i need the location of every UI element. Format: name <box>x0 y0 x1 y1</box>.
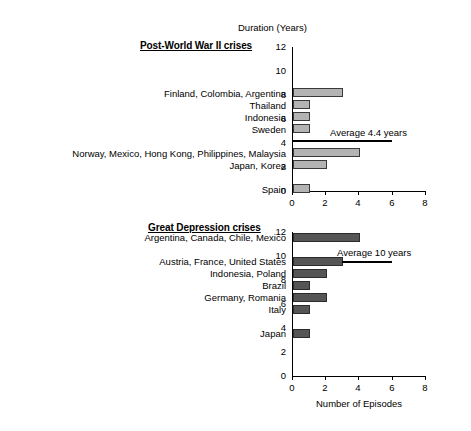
bar-greatdepression-4 <box>293 293 327 302</box>
plot-area-postwwii: 12 10 8 6 4 2 0 0 2 4 6 8 Average 4.4 ye… <box>292 47 425 191</box>
y-ticklabel-greatdepression-10: 10 <box>264 250 286 261</box>
y-ticklabel-postwwii-4: 4 <box>264 137 286 148</box>
y-ticklabel-greatdepression-2: 2 <box>264 346 286 357</box>
category-label-greatdepression-0: Argentina, Canada, Chile, Mexico <box>36 232 286 243</box>
average-label-postwwii: Average 4.4 years <box>330 127 407 138</box>
bar-postwwii-0 <box>293 88 343 97</box>
y-ticklabel-greatdepression-8: 8 <box>264 274 286 285</box>
x-ticklabel-greatdepression-2: 2 <box>315 382 335 393</box>
category-label-postwwii-2: Indonesia <box>46 112 286 123</box>
panel-title-postwwii: Post-World War II crises <box>140 40 252 51</box>
x-tick-greatdepression-8 <box>425 376 426 380</box>
x-ticklabel-postwwii-0: 0 <box>282 197 302 208</box>
x-axis-line-greatdepression <box>292 376 426 377</box>
bar-greatdepression-1 <box>293 257 343 266</box>
x-axis-title: Number of Episodes <box>316 398 402 409</box>
average-label-greatdepression: Average 10 years <box>337 247 411 258</box>
x-tick-postwwii-8 <box>425 191 426 195</box>
average-line-postwwii <box>292 140 392 142</box>
x-ticklabel-postwwii-8: 8 <box>415 197 435 208</box>
y-ticklabel-postwwii-2: 2 <box>264 161 286 172</box>
x-ticklabel-greatdepression-6: 6 <box>382 382 402 393</box>
bar-greatdepression-0 <box>293 233 360 242</box>
category-label-greatdepression-3: Brazil <box>36 280 286 291</box>
figure-root: Duration (Years) Post-World War II crise… <box>0 0 471 431</box>
bar-greatdepression-3 <box>293 281 310 290</box>
x-tick-greatdepression-2 <box>325 376 326 380</box>
category-label-postwwii-1: Thailand <box>46 100 286 111</box>
bar-greatdepression-5 <box>293 305 310 314</box>
x-ticklabel-postwwii-6: 6 <box>382 197 402 208</box>
y-ticklabel-greatdepression-6: 6 <box>264 298 286 309</box>
bar-postwwii-3 <box>293 124 310 133</box>
x-ticklabel-greatdepression-0: 0 <box>282 382 302 393</box>
y-ticklabel-postwwii-10: 10 <box>264 65 286 76</box>
bar-postwwii-6 <box>293 184 310 193</box>
x-ticklabel-postwwii-4: 4 <box>348 197 368 208</box>
x-tick-greatdepression-0 <box>292 376 293 380</box>
plot-area-greatdepression: 12 10 8 6 4 2 0 0 2 4 6 8 Average 10 yea… <box>292 232 425 376</box>
category-label-postwwii-4: Norway, Mexico, Hong Kong, Philippines, … <box>16 148 286 159</box>
y-ticklabel-greatdepression-12: 12 <box>264 226 286 237</box>
y-ticklabel-greatdepression-0: 0 <box>264 370 286 381</box>
bar-postwwii-4 <box>293 148 360 157</box>
category-label-greatdepression-6: Japan <box>36 328 286 339</box>
y-axis-title: Duration (Years) <box>238 22 307 33</box>
category-label-postwwii-0: Finland, Colombia, Argentina <box>46 88 286 99</box>
y-ticklabel-postwwii-12: 12 <box>264 41 286 52</box>
x-tick-postwwii-4 <box>358 191 359 195</box>
category-label-postwwii-5: Japan, Korea <box>46 160 286 171</box>
y-ticklabel-greatdepression-4: 4 <box>264 322 286 333</box>
bar-greatdepression-2 <box>293 269 327 278</box>
x-tick-greatdepression-6 <box>392 376 393 380</box>
bar-greatdepression-6 <box>293 329 310 338</box>
x-ticklabel-greatdepression-8: 8 <box>415 382 435 393</box>
average-line-greatdepression <box>342 261 392 263</box>
x-tick-greatdepression-4 <box>358 376 359 380</box>
y-ticklabel-postwwii-6: 6 <box>264 113 286 124</box>
category-label-postwwii-6: Spain <box>46 184 286 195</box>
category-label-greatdepression-2: Indonesia, Poland <box>36 268 286 279</box>
bar-postwwii-2 <box>293 112 310 121</box>
x-ticklabel-greatdepression-4: 4 <box>348 382 368 393</box>
y-ticklabel-postwwii-0: 0 <box>264 185 286 196</box>
x-tick-postwwii-6 <box>392 191 393 195</box>
x-ticklabel-postwwii-2: 2 <box>315 197 335 208</box>
category-label-greatdepression-4: Germany, Romania <box>36 292 286 303</box>
category-label-greatdepression-1: Austria, France, United States <box>36 256 286 267</box>
x-axis-line-postwwii <box>292 191 426 192</box>
bar-postwwii-1 <box>293 100 310 109</box>
category-label-postwwii-3: Sweden <box>46 124 286 135</box>
y-axis-line-greatdepression <box>292 232 293 376</box>
bar-postwwii-5 <box>293 160 327 169</box>
x-tick-postwwii-2 <box>325 191 326 195</box>
y-ticklabel-postwwii-8: 8 <box>264 89 286 100</box>
category-label-greatdepression-5: Italy <box>36 304 286 315</box>
